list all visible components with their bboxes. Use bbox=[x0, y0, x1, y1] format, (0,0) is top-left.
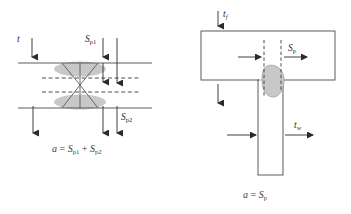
right-diagram-group: tf Sp tw bbox=[201, 9, 335, 201]
figure-root: t Sp1 Sp2 bbox=[0, 0, 351, 214]
dimension-tw: tw bbox=[227, 120, 313, 135]
left-diagram-group: t Sp1 Sp2 bbox=[17, 34, 152, 155]
label-sp1: Sp1 bbox=[85, 34, 96, 45]
dimension-sp: Sp bbox=[238, 43, 307, 57]
label-sp: Sp bbox=[288, 43, 297, 54]
dimension-sp2: Sp2 bbox=[103, 63, 132, 133]
label-tw: tw bbox=[294, 120, 302, 131]
weld-profile-outline bbox=[62, 63, 98, 108]
root-face-dashed-lines bbox=[42, 78, 140, 92]
label-tf: tf bbox=[223, 9, 229, 20]
technical-diagram-svg: t Sp1 Sp2 bbox=[0, 0, 351, 214]
label-sp2: Sp2 bbox=[121, 112, 132, 123]
dimension-tf: tf bbox=[218, 9, 229, 26]
dimension-t: t bbox=[17, 34, 32, 57]
formula-left: a = Sp1 + Sp2 bbox=[52, 143, 101, 155]
formula-right: a = Sp bbox=[243, 189, 268, 201]
label-t: t bbox=[17, 34, 20, 44]
